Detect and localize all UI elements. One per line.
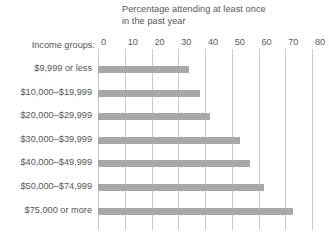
x-tick-label: 30: [178, 37, 191, 48]
bar: [98, 113, 210, 120]
bar: [98, 90, 200, 97]
x-tick-label: 70: [285, 37, 298, 48]
chart-row: $50,000–$74,999: [98, 184, 314, 191]
bar: [98, 160, 250, 167]
category-label: $40,000–$49,999: [20, 157, 92, 168]
x-tick-label: 20: [152, 37, 165, 48]
x-tick-label: 10: [125, 37, 138, 48]
chart-row: $20,000–$29,999: [98, 113, 314, 120]
x-tick-label: 50: [232, 37, 245, 48]
chart-title: Percentage attending at least once in th…: [122, 4, 322, 27]
bar-chart: Percentage attending at least once in th…: [0, 0, 329, 240]
plot-area: 01020304050607080$9,999 or less$10,000–$…: [98, 38, 314, 230]
category-label: $10,000–$19,999: [20, 87, 92, 98]
chart-row: $10,000–$19,999: [98, 90, 314, 97]
category-label: $20,000–$29,999: [20, 110, 92, 121]
y-axis-caption: Income groups:: [32, 40, 95, 51]
x-tick-label: 60: [259, 37, 272, 48]
chart-row: $9,999 or less: [98, 66, 314, 73]
x-tick-label: 80: [312, 37, 325, 48]
category-label: $50,000–$74,999: [20, 181, 92, 192]
category-label: $30,000–$39,999: [20, 134, 92, 145]
chart-row: $30,000–$39,999: [98, 137, 314, 144]
x-tick-label: 0: [98, 37, 106, 48]
category-label: $75,000 or more: [25, 205, 92, 216]
chart-row: $75,000 or more: [98, 208, 314, 215]
bar: [98, 137, 240, 144]
bar: [98, 66, 189, 73]
bar: [98, 184, 264, 191]
bar: [98, 208, 293, 215]
category-label: $9,999 or less: [34, 63, 92, 74]
chart-row: $40,000–$49,999: [98, 160, 314, 167]
x-tick-label: 40: [205, 37, 218, 48]
